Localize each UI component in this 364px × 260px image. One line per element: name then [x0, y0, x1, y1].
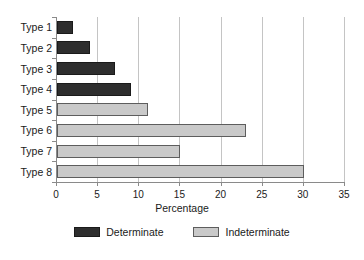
- gridline: [303, 17, 304, 182]
- y-axis-category-label: Type 4: [0, 83, 52, 95]
- y-axis-category-labels: Type 1Type 2Type 3Type 4Type 5Type 6Type…: [0, 17, 52, 182]
- x-axis-tick-label: 15: [167, 189, 191, 201]
- gridline: [344, 17, 345, 182]
- x-axis-tick: [179, 182, 180, 186]
- bar: [57, 165, 304, 178]
- bar: [57, 41, 90, 54]
- x-axis-tick-label: 0: [44, 189, 68, 201]
- legend-swatch: [74, 227, 100, 237]
- y-axis-category-label: Type 1: [0, 21, 52, 33]
- y-axis-tick: [52, 100, 57, 101]
- y-axis-tick: [52, 58, 57, 59]
- y-axis-category-label: Type 7: [0, 145, 52, 157]
- y-axis-tick: [52, 141, 57, 142]
- bar: [57, 145, 180, 158]
- bar: [57, 124, 246, 137]
- x-axis-tick-label: 20: [209, 189, 233, 201]
- x-axis-tick: [262, 182, 263, 186]
- y-axis-tick: [52, 38, 57, 39]
- x-axis-line: [56, 182, 344, 183]
- gridline: [262, 17, 263, 182]
- chart-figure: Type 1Type 2Type 3Type 4Type 5Type 6Type…: [0, 0, 364, 260]
- legend-label: Indeterminate: [225, 226, 289, 238]
- x-axis-tick-label: 35: [332, 189, 356, 201]
- gridline: [221, 17, 222, 182]
- legend-entry: Indeterminate: [193, 226, 289, 238]
- chart-legend: DeterminateIndeterminate: [0, 226, 364, 238]
- bar: [57, 83, 131, 96]
- x-axis-tick-label: 25: [250, 189, 274, 201]
- y-axis-category-label: Type 5: [0, 104, 52, 116]
- bar: [57, 62, 115, 75]
- plot-area: 05101520253035: [56, 17, 344, 182]
- y-axis-category-label: Type 2: [0, 42, 52, 54]
- legend-swatch: [193, 227, 219, 237]
- y-axis-category-label: Type 3: [0, 63, 52, 75]
- legend-entry: Determinate: [74, 226, 163, 238]
- x-axis-tick: [303, 182, 304, 186]
- y-axis-tick: [52, 161, 57, 162]
- x-axis-tick: [138, 182, 139, 186]
- x-axis-tick-label: 5: [85, 189, 109, 201]
- y-axis-category-label: Type 6: [0, 124, 52, 136]
- x-axis-tick: [97, 182, 98, 186]
- bar: [57, 103, 148, 116]
- x-axis-tick-label: 30: [291, 189, 315, 201]
- y-axis-tick: [52, 79, 57, 80]
- y-axis-tick: [52, 182, 57, 183]
- y-axis-tick: [52, 120, 57, 121]
- x-axis-tick-label: 10: [126, 189, 150, 201]
- x-axis-tick: [344, 182, 345, 186]
- bar: [57, 21, 73, 34]
- x-axis-tick: [221, 182, 222, 186]
- legend-label: Determinate: [106, 226, 163, 238]
- y-axis-tick: [52, 17, 57, 18]
- y-axis-category-label: Type 8: [0, 166, 52, 178]
- x-axis-title: Percentage: [0, 202, 364, 214]
